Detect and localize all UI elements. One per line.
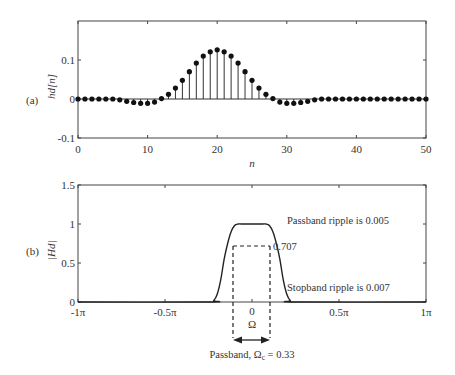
stem-marker <box>256 85 261 90</box>
stem-marker <box>201 54 206 59</box>
stem-marker <box>103 96 108 101</box>
stem-marker <box>382 96 387 101</box>
stem-marker <box>347 96 352 101</box>
stem-marker <box>291 101 296 106</box>
stem-marker <box>194 61 199 66</box>
a-x-tick-label: 0 <box>75 143 81 155</box>
stem-marker <box>180 78 185 83</box>
b-x-tick-label: 0.5π <box>329 306 349 318</box>
stem-marker <box>284 101 289 106</box>
b-y-tick-label: 1 <box>70 218 76 230</box>
stem-marker <box>138 101 143 106</box>
stem-marker <box>305 99 310 104</box>
stem-marker <box>354 96 359 101</box>
stem-marker <box>333 96 338 101</box>
stem-marker <box>326 96 331 101</box>
panel-b-label: (b) <box>26 245 39 258</box>
panel-b: (b) |Hd| -1π-0.5π0.5π1π00.511.5 0 Ω Pass… <box>26 179 432 362</box>
stem-marker <box>416 96 421 101</box>
stem-marker <box>270 96 275 101</box>
stem-marker <box>222 49 227 54</box>
stem-marker <box>96 96 101 101</box>
stopband-ripple-annotation: Stopband ripple is 0.007 <box>287 282 390 293</box>
stem-marker <box>361 96 366 101</box>
cutoff-value-annotation: 0.707 <box>273 241 297 252</box>
b-ticks: -1π-0.5π0.5π1π00.511.5 <box>61 179 432 318</box>
passband-ripple-annotation: Passband ripple is 0.005 <box>287 215 389 226</box>
stem-marker <box>208 49 213 54</box>
panel-a-label: (a) <box>26 94 39 107</box>
stem-marker <box>124 99 129 104</box>
a-x-axis-label: n <box>249 157 255 169</box>
stem-marker <box>215 47 220 52</box>
stem-marker <box>117 97 122 102</box>
a-y-axis-label: hd[n] <box>45 74 57 99</box>
stem-marker <box>152 100 157 105</box>
stem-marker <box>89 96 94 101</box>
stem-marker <box>409 96 414 101</box>
passband-cutoff-annotation: Passband, Ωc = 0.33 <box>209 349 294 362</box>
stem-marker <box>235 61 240 66</box>
stem-marker <box>298 100 303 105</box>
a-x-tick-label: 30 <box>281 143 293 155</box>
stem-marker <box>110 96 115 101</box>
stem-marker <box>131 100 136 105</box>
stem-marker <box>159 96 164 101</box>
stem-marker <box>249 78 254 83</box>
a-x-tick-label: 50 <box>421 143 433 155</box>
b-zero-label: 0 <box>249 305 255 317</box>
b-y-tick-label: 0.5 <box>61 257 75 269</box>
a-x-tick-label: 20 <box>212 143 224 155</box>
stem-marker <box>173 85 178 90</box>
arrow-left-icon <box>233 337 242 344</box>
stem-marker <box>423 96 428 101</box>
stem-marker <box>375 96 380 101</box>
stem-marker <box>145 101 150 106</box>
b-x-tick-label: 1π <box>420 306 432 318</box>
a-x-tick-label: 10 <box>142 143 154 155</box>
stem-marker <box>396 96 401 101</box>
stem-marker <box>403 96 408 101</box>
a-y-tick-label: 0 <box>70 93 76 105</box>
stem-marker <box>187 69 192 74</box>
a-y-tick-label: 0.1 <box>61 54 75 66</box>
stem-marker <box>389 96 394 101</box>
stem-marker <box>277 100 282 105</box>
stem-marker <box>340 96 345 101</box>
b-x-tick-label: -0.5π <box>154 306 177 318</box>
stem-marker <box>166 92 171 97</box>
b-x-axis-label: Ω <box>248 318 256 330</box>
stem-marker <box>368 96 373 101</box>
b-y-tick-label: 1.5 <box>61 179 75 191</box>
a-stem-series <box>75 47 428 106</box>
b-y-tick-label: 0 <box>70 296 76 308</box>
stem-marker <box>75 96 80 101</box>
passband-arrow <box>233 337 270 344</box>
stem-marker <box>82 96 87 101</box>
figure: (a) hd[n] 01020304050-0.100.1 n (b) |Hd|… <box>0 0 455 375</box>
stem-marker <box>229 54 234 59</box>
stem-marker <box>242 69 247 74</box>
a-y-tick-label: -0.1 <box>58 132 75 144</box>
a-x-tick-label: 40 <box>351 143 363 155</box>
b-y-axis-label: |Hd| <box>45 241 57 261</box>
stem-marker <box>263 92 268 97</box>
stem-marker <box>312 97 317 102</box>
arrow-right-icon <box>261 337 270 344</box>
stem-marker <box>319 96 324 101</box>
panel-a: (a) hd[n] 01020304050-0.100.1 n <box>26 21 432 169</box>
